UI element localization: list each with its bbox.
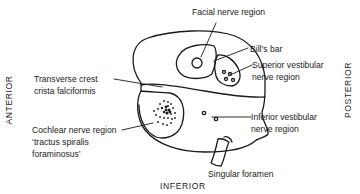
label-inferior-vestibular-1: Inferior vestibular <box>251 112 317 123</box>
label-facial-nerve-region: Facial nerve region <box>192 7 265 18</box>
label-superior-vestibular-1: Superior vestibular <box>252 60 324 71</box>
label-singular-foramen: Singular foramen <box>208 169 273 180</box>
cochlear-perforations <box>153 100 176 126</box>
label-cochlear-2: ‘tractus spiralis <box>32 137 89 148</box>
label-transverse-crest-2: crista falciformis <box>34 86 96 97</box>
transverse-crest <box>141 84 265 97</box>
label-cochlear-3: foraminosus’ <box>32 149 81 160</box>
label-superior-vestibular-2: nerve region <box>252 72 300 83</box>
orientation-inferior: INFERIOR <box>160 181 206 191</box>
orientation-posterior: POSTERIOR <box>343 62 353 118</box>
facial-nerve-region-outline <box>176 45 216 79</box>
facial-nerve-foramen <box>192 58 202 68</box>
orientation-anterior: ANTERIOR <box>4 75 14 124</box>
label-inferior-vestibular-2: nerve region <box>251 124 299 135</box>
label-bills-bar: Bill’s bar <box>250 44 282 55</box>
internal-auditory-meatus-diagram <box>0 0 360 194</box>
label-cochlear-1: Cochlear nerve region <box>32 125 117 136</box>
label-transverse-crest-1: Transverse crest <box>34 74 98 85</box>
